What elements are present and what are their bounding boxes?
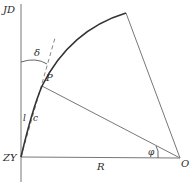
radius-line-p xyxy=(42,86,180,158)
label-delta: δ xyxy=(34,47,40,58)
label-phi: φ xyxy=(148,147,155,157)
circular-curve-arc xyxy=(21,13,126,157)
label-r: R xyxy=(96,161,105,172)
label-jd: JD xyxy=(1,4,15,15)
label-o: O xyxy=(181,158,189,169)
phi-angle-arc xyxy=(156,146,158,158)
delta-angle-arc xyxy=(21,60,47,64)
label-zy: ZY xyxy=(2,152,18,163)
label-l: l xyxy=(23,113,26,123)
curve-diagram: JD ZY P O R δ φ l c xyxy=(0,0,195,185)
label-p: P xyxy=(45,72,53,83)
radius-line-end xyxy=(126,13,180,158)
radius-line-r xyxy=(21,157,180,158)
label-c: c xyxy=(33,113,38,123)
